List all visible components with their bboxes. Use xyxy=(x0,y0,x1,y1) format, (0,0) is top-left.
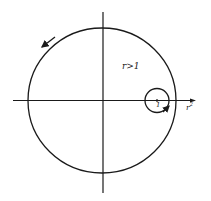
axis-label: r2 xyxy=(186,102,193,112)
diagram-canvas xyxy=(0,0,211,201)
clockwise-arrow-icon xyxy=(163,106,169,112)
center-point-label: 1 xyxy=(156,102,160,109)
region-label: r>1 xyxy=(122,62,140,71)
axis-label-exponent: 2 xyxy=(190,101,193,107)
